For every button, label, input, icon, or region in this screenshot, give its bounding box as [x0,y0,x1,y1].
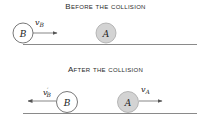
ball-b-label: B [63,98,71,108]
ball-b-label: B [19,29,27,39]
ball-a-before: A [96,23,116,43]
velocity-label-vB: vB [35,18,45,28]
ball-b-before: B [13,23,33,43]
collision-diagram: Before the collision After the collision… [0,0,211,124]
ball-a-after: A [118,92,139,113]
velocity-label-vA: vA [141,85,151,95]
diagram-canvas: B A vB B A v′B vA [0,0,211,124]
ball-b-after: B [57,92,78,113]
ball-a-label: A [124,98,132,108]
velocity-label-vB-prime: v′B [43,86,51,98]
ball-a-label: A [102,29,110,39]
